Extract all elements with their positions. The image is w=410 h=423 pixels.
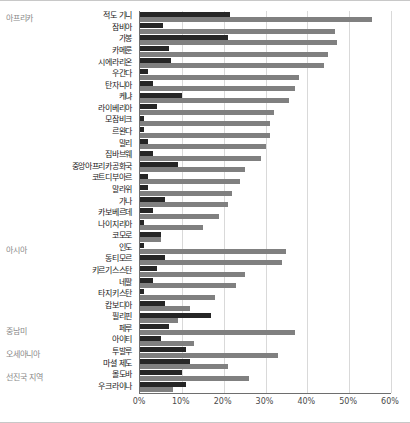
bar-light [140, 179, 240, 184]
x-axis-tick-label: 50% [339, 397, 357, 406]
bar-light [140, 318, 178, 323]
group-label-column: 아프리카아시아중남미오세아니아선진국 지역 [0, 1, 68, 423]
bar-light [140, 98, 289, 103]
gridline [307, 11, 308, 393]
category-label: 탄자니아 [105, 82, 132, 90]
bar-dark [140, 104, 157, 109]
bar-light [140, 330, 295, 335]
bar-dark [140, 359, 190, 364]
bar-light [140, 110, 274, 115]
category-label: 마셜 제도 [103, 360, 132, 368]
gridline [391, 11, 392, 393]
bar-chart: 아프리카아시아중남미오세아니아선진국 지역 적도 기니잠비아가봉카메룬시에라리온… [0, 0, 410, 423]
bar-light [140, 29, 335, 34]
category-label: 코트디부아르 [92, 174, 132, 182]
category-label: 잠비아 [112, 24, 132, 32]
group-label: 아시아 [6, 244, 26, 255]
category-label: 말리 [119, 140, 132, 148]
bar-light [140, 387, 173, 392]
x-axis-line [139, 393, 391, 394]
bar-light [140, 17, 372, 22]
category-label: 가나 [119, 198, 132, 206]
category-label: 모잠비크 [105, 116, 132, 124]
bar-dark [140, 232, 161, 237]
bar-light [140, 376, 249, 381]
bar-dark [140, 185, 148, 190]
gridline [266, 11, 267, 393]
bar-dark [140, 197, 165, 202]
group-label: 선진국 지역 [6, 371, 42, 382]
bar-light [140, 353, 278, 358]
category-label: 필리핀 [112, 313, 132, 321]
group-label: 오세아니아 [6, 348, 40, 359]
bar-dark [140, 162, 178, 167]
bar-dark [140, 174, 148, 179]
category-label: 우간다 [112, 70, 132, 78]
bar-light [140, 133, 270, 138]
x-axis-tick-label: 20% [214, 397, 232, 406]
category-label-column: 적도 기니잠비아가봉카메룬시에라리온우간다탄자니아케냐라이베리아모잠비크르완다말… [60, 1, 136, 423]
category-label: 네팔 [119, 279, 132, 287]
category-label: 나이지리아 [98, 221, 132, 229]
category-label: 동티모르 [105, 255, 132, 263]
bar-dark [140, 46, 169, 51]
bar-dark [140, 93, 182, 98]
category-label: 타지키스탄 [98, 290, 132, 298]
bar-dark [140, 220, 144, 225]
x-axis-tick-label: 40% [297, 397, 315, 406]
bar-light [140, 167, 245, 172]
category-label: 짐바브웨 [105, 151, 132, 159]
plot-area [139, 11, 391, 393]
bar-dark [140, 370, 182, 375]
bar-dark [140, 324, 169, 329]
bar-light [140, 214, 219, 219]
category-label: 인도 [119, 244, 132, 252]
bar-light [140, 341, 194, 346]
category-label: 라이베리아 [98, 105, 132, 113]
bar-dark [140, 278, 153, 283]
bar-dark [140, 23, 163, 28]
category-label: 케냐 [119, 93, 132, 101]
bar-light [140, 202, 228, 207]
category-label: 아이티 [112, 336, 132, 344]
bar-light [140, 156, 261, 161]
bar-light [140, 306, 190, 311]
bar-dark [140, 12, 230, 17]
category-label: 코모로 [112, 232, 132, 240]
bar-light [140, 121, 270, 126]
category-label: 시에라리온 [98, 59, 132, 67]
category-label: 키르기스스탄 [92, 267, 132, 275]
x-axis-tick-label: 30% [256, 397, 274, 406]
bar-light [140, 75, 299, 80]
bar-dark [140, 336, 161, 341]
category-label: 카보베르데 [98, 209, 132, 217]
gridline [349, 11, 350, 393]
bar-dark [140, 81, 153, 86]
bar-light [140, 63, 324, 68]
category-label: 르완다 [112, 128, 132, 136]
bar-dark [140, 69, 148, 74]
x-axis-tick-label: 0% [133, 397, 146, 406]
bar-light [140, 295, 215, 300]
bar-dark [140, 382, 186, 387]
bar-dark [140, 139, 148, 144]
bar-dark [140, 266, 157, 271]
bar-light [140, 260, 282, 265]
bar-light [140, 225, 203, 230]
category-label: 적도 기니 [103, 12, 132, 20]
x-axis-tick-label: 60% [381, 397, 399, 406]
bar-dark [140, 243, 144, 248]
group-label: 중남미 [6, 325, 26, 336]
bar-dark [140, 289, 144, 294]
bar-dark [140, 35, 228, 40]
bar-light [140, 249, 286, 254]
bar-light [140, 237, 161, 242]
bar-dark [140, 127, 144, 132]
bar-light [140, 364, 228, 369]
bar-dark [140, 58, 171, 63]
category-label: 몰도바 [112, 371, 132, 379]
category-label: 중앙아프리카공화국 [72, 163, 132, 171]
bar-dark [140, 208, 153, 213]
category-label: 페루 [119, 325, 132, 333]
category-label: 가봉 [119, 35, 132, 43]
